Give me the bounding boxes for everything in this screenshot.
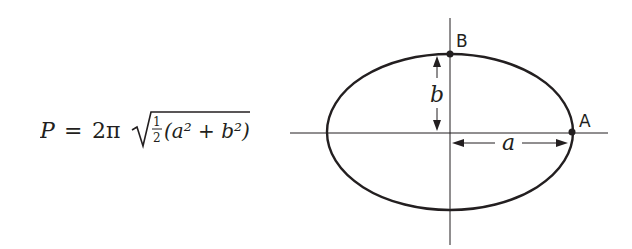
semi-major-label: a	[502, 130, 515, 155]
point-a-dot	[569, 129, 576, 136]
a-arrow-left-head-icon	[452, 139, 464, 147]
semi-minor-label: b	[430, 82, 444, 107]
a-arrow-right-head-icon	[556, 139, 568, 147]
point-a-label: A	[579, 111, 591, 131]
point-b-label: B	[456, 31, 468, 51]
b-arrow-up-head-icon	[433, 56, 441, 67]
point-b-dot	[447, 51, 454, 58]
ellipse-diagram: B A b a	[0, 0, 632, 249]
b-arrow-down-head-icon	[433, 120, 441, 131]
